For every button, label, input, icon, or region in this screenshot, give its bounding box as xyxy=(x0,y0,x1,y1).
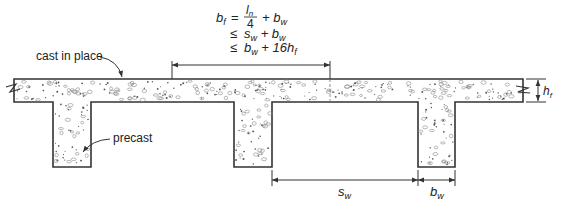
aggregate-particle xyxy=(241,120,243,122)
aggregate-particle xyxy=(425,98,427,100)
aggregate-particle xyxy=(489,96,490,97)
aggregate-particle xyxy=(83,95,85,97)
aggregate-particle xyxy=(254,148,256,150)
cast-in-place-leader xyxy=(100,57,122,77)
aggregate-particle xyxy=(350,86,352,88)
aggregate-particle xyxy=(16,98,17,99)
aggregate-particle xyxy=(391,88,393,90)
aggregate-particle xyxy=(216,91,217,92)
aggregate-particle xyxy=(309,99,311,101)
aggregate-particle xyxy=(62,157,64,159)
aggregate-particle xyxy=(243,151,245,153)
aggregate-particle xyxy=(81,82,83,84)
aggregate-particle xyxy=(260,123,261,124)
aggregate-particle xyxy=(136,96,138,98)
aggregate-particle xyxy=(335,96,337,98)
aggregate-particle xyxy=(202,86,203,87)
aggregate-particle xyxy=(269,83,270,84)
aggregate-particle xyxy=(105,84,107,86)
aggregate-particle xyxy=(70,130,72,132)
aggregate-particle xyxy=(55,151,57,153)
aggregate-particle xyxy=(289,86,291,88)
aggregate-particle xyxy=(166,97,168,99)
aggregate-particle xyxy=(234,89,236,91)
aggregate-particle xyxy=(387,84,388,85)
aggregate-particle xyxy=(450,124,452,126)
aggregate-particle xyxy=(238,130,239,131)
aggregate-particle xyxy=(157,88,159,90)
aggregate-particle xyxy=(253,163,254,164)
aggregate-particle xyxy=(477,92,479,94)
aggregate-particle xyxy=(144,88,145,89)
aggregate-particle xyxy=(45,97,46,98)
aggregate-particle xyxy=(492,97,493,98)
aggregate-particle xyxy=(316,90,317,91)
sw-label: sw xyxy=(338,184,352,201)
aggregate-particle xyxy=(167,82,169,84)
formula-line1-tail: + bw xyxy=(262,10,287,27)
aggregate-particle xyxy=(265,81,267,83)
aggregate-particle xyxy=(173,88,174,89)
aggregate-particle xyxy=(26,91,28,93)
aggregate-particle xyxy=(503,98,505,100)
aggregate-particle xyxy=(201,98,202,99)
aggregate-particle xyxy=(489,99,490,100)
aggregate-particle xyxy=(182,82,184,84)
aggregate-particle xyxy=(455,87,456,88)
aggregate-particle xyxy=(281,89,282,90)
aggregate-particle xyxy=(431,107,432,108)
aggregate-particle xyxy=(493,91,494,92)
aggregate-particle xyxy=(241,110,243,112)
aggregate-particle xyxy=(238,141,239,142)
aggregate-particle xyxy=(450,155,451,156)
aggregate-particle xyxy=(261,124,263,126)
aggregate-particle xyxy=(380,86,382,88)
aggregate-particle xyxy=(442,119,444,121)
aggregate-particle xyxy=(62,93,64,95)
aggregate-particle xyxy=(258,138,259,139)
aggregate-particle xyxy=(374,94,375,95)
effective-width-formula: bf = ln 4 + bw ≤ sw + bw ≤ bw + 16hf xyxy=(216,3,298,57)
aggregate-particle xyxy=(216,94,217,95)
aggregate-particle xyxy=(147,81,149,83)
aggregate-particle xyxy=(448,155,450,157)
aggregate-particle xyxy=(207,85,208,86)
aggregate-particle xyxy=(492,89,493,90)
aggregate-particle xyxy=(425,109,427,111)
aggregate-particle xyxy=(436,126,438,128)
aggregate-particle xyxy=(432,158,434,160)
aggregate-particle xyxy=(42,84,44,86)
aggregate-particle xyxy=(500,95,501,96)
aggregate-particle xyxy=(304,96,305,97)
aggregate-particle xyxy=(87,105,88,106)
aggregate-particle xyxy=(265,87,266,88)
aggregate-particle xyxy=(259,85,261,87)
aggregate-particle xyxy=(333,92,334,93)
aggregate-particle xyxy=(451,160,452,161)
aggregate-particle xyxy=(279,96,280,97)
aggregate-particle xyxy=(58,145,60,147)
aggregate-particle xyxy=(341,91,342,92)
aggregate-particle xyxy=(418,98,419,99)
aggregate-particle xyxy=(76,162,77,163)
aggregate-particle xyxy=(58,82,60,84)
aggregate-particle xyxy=(452,141,453,142)
aggregate-particle xyxy=(429,84,430,85)
aggregate-particle xyxy=(186,82,187,83)
aggregate-particle xyxy=(443,131,445,133)
aggregate-particle xyxy=(421,91,423,93)
aggregate-particle xyxy=(410,86,411,87)
aggregate-particle xyxy=(82,107,84,109)
bw-label: bw xyxy=(430,184,444,201)
aggregate-particle xyxy=(353,89,355,91)
aggregate-particle xyxy=(65,151,66,152)
aggregate-particle xyxy=(80,160,82,162)
aggregate-particle xyxy=(446,137,447,138)
formula-lhs: bf xyxy=(216,10,227,27)
aggregate-particle xyxy=(434,120,436,122)
aggregate-particle xyxy=(42,90,44,92)
aggregate-particle xyxy=(56,82,58,84)
formula-frac-numerator: ln xyxy=(246,3,254,18)
aggregate-particle xyxy=(315,84,316,85)
aggregate-particle xyxy=(429,147,430,148)
